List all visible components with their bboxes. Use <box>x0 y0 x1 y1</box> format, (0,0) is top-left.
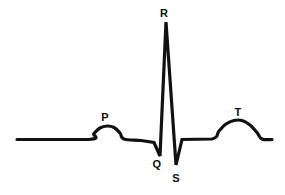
r-wave-label: R <box>160 8 168 19</box>
s-wave-label: S <box>172 173 180 184</box>
q-wave-label: Q <box>153 159 162 170</box>
ecg-trace-path <box>17 22 272 165</box>
ecg-figure: P Q R S T <box>0 0 285 195</box>
p-wave-label: P <box>101 112 109 123</box>
ecg-waveform-svg <box>0 0 285 195</box>
t-wave-label: T <box>235 107 242 118</box>
